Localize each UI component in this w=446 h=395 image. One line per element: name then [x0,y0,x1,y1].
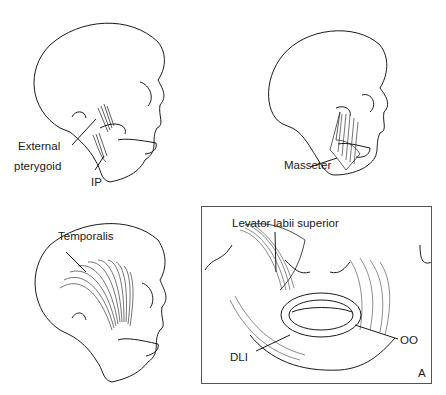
label-ip: IP [91,176,102,189]
skull-temporalis [35,224,166,382]
label-levator-labii-superior: Levator labii superior [232,217,339,230]
label-panel-letter-a: A [418,367,426,380]
label-external-pterygoid-line1: External [18,140,60,153]
label-oo: OO [400,334,418,347]
label-temporalis: Temporalis [58,230,114,243]
label-external-pterygoid-line2: pterygoid [14,160,61,173]
label-masseter: Masseter [284,159,331,172]
skull-external-pterygoid [34,23,164,182]
label-dli: DLI [230,351,248,364]
skull-masseter [269,31,388,175]
